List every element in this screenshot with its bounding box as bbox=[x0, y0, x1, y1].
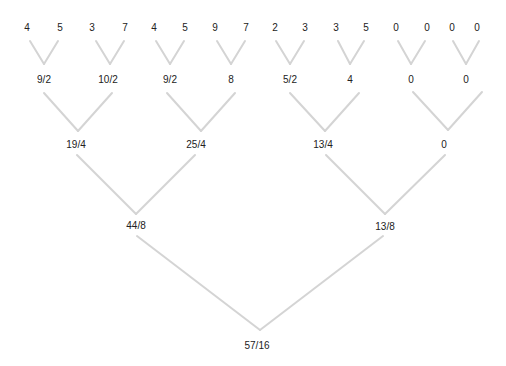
level2-node: 0 bbox=[441, 139, 447, 150]
leaf-node: 5 bbox=[182, 22, 188, 33]
leaf-node: 4 bbox=[24, 22, 30, 33]
leaf-node: 0 bbox=[424, 22, 430, 33]
leaf-node: 3 bbox=[302, 22, 308, 33]
leaf-node: 5 bbox=[57, 22, 63, 33]
leaf-node: 9 bbox=[212, 22, 218, 33]
leaf-node: 0 bbox=[449, 22, 455, 33]
root-node: 57/16 bbox=[244, 340, 269, 351]
level1-node: 10/2 bbox=[98, 74, 117, 85]
tree-edges bbox=[0, 0, 506, 366]
level3-node: 13/8 bbox=[375, 221, 394, 232]
level1-node: 0 bbox=[463, 74, 469, 85]
level2-node: 25/4 bbox=[186, 139, 205, 150]
averaging-tree-diagram: 4 5 3 7 4 5 9 7 2 3 3 5 0 0 0 0 9/2 10/2… bbox=[0, 0, 506, 366]
level1-node: 9/2 bbox=[163, 74, 177, 85]
leaf-node: 5 bbox=[363, 22, 369, 33]
leaf-node: 3 bbox=[89, 22, 95, 33]
level1-node: 8 bbox=[228, 74, 234, 85]
leaf-node: 2 bbox=[272, 22, 278, 33]
level2-node: 13/4 bbox=[313, 139, 332, 150]
leaf-node: 4 bbox=[151, 22, 157, 33]
leaf-node: 0 bbox=[393, 22, 399, 33]
leaf-node: 7 bbox=[122, 22, 128, 33]
level1-node: 9/2 bbox=[37, 74, 51, 85]
level3-node: 44/8 bbox=[126, 220, 145, 231]
level2-node: 19/4 bbox=[66, 139, 85, 150]
level1-node: 5/2 bbox=[283, 74, 297, 85]
leaf-node: 0 bbox=[474, 22, 480, 33]
leaf-node: 3 bbox=[333, 22, 339, 33]
leaf-node: 7 bbox=[243, 22, 249, 33]
level1-node: 0 bbox=[408, 74, 414, 85]
level1-node: 4 bbox=[347, 74, 353, 85]
